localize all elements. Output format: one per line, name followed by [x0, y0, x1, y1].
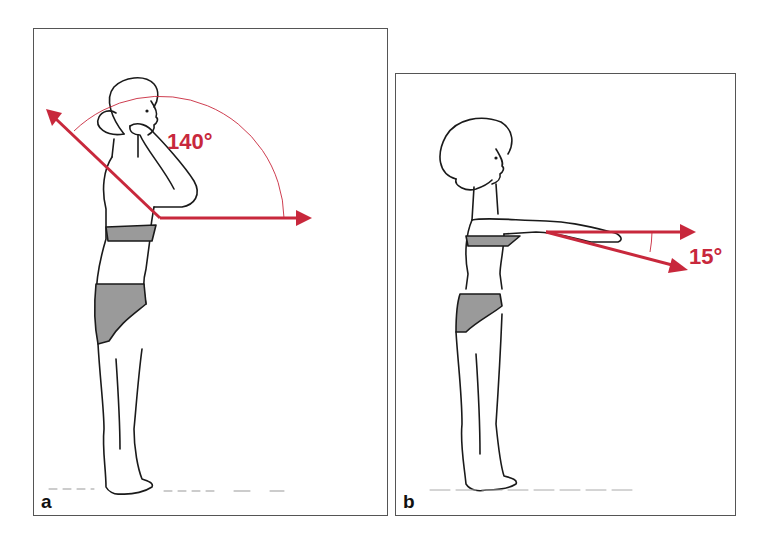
angle-label-a: 140°: [167, 129, 213, 155]
panel-letter-b: b: [403, 491, 415, 513]
panel-letter-a: a: [41, 491, 52, 513]
angle-arrows-b: [546, 224, 696, 273]
angle-label-b: 15°: [689, 244, 722, 270]
angle-arc-15: [650, 232, 652, 252]
angle-arc-140: [74, 96, 284, 218]
figure-a-illustration: [34, 29, 389, 517]
panel-b: 15° b: [395, 73, 736, 516]
panel-a: 140° a: [33, 28, 388, 516]
figure-b-illustration: [396, 74, 737, 517]
